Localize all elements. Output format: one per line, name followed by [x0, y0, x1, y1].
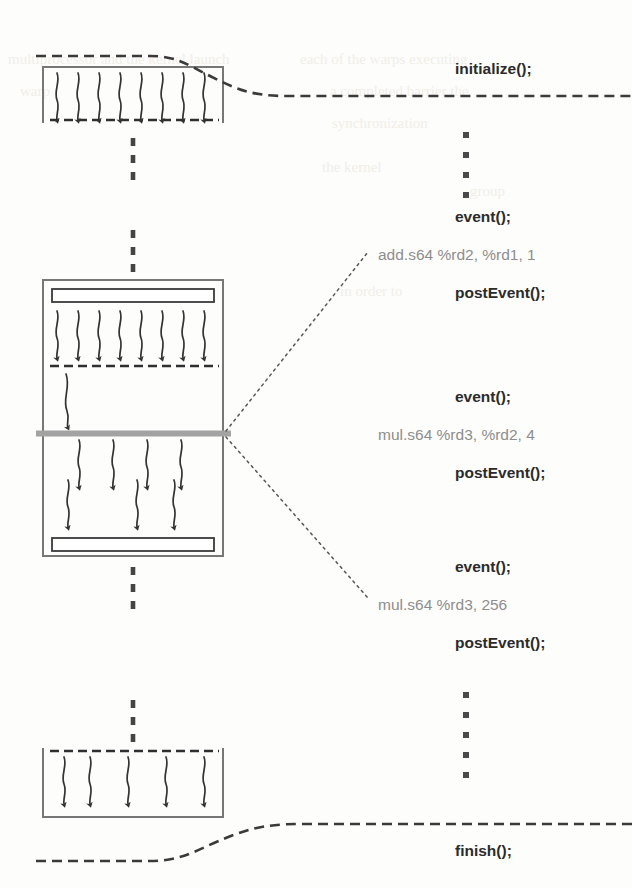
timeline-label-finish: finish();	[455, 842, 512, 860]
svg-text:synchronization: synchronization	[332, 115, 428, 131]
timeline-label-postevent-3: postEvent();	[455, 634, 545, 652]
second-kernel-block	[36, 280, 231, 556]
svg-text:the kernel: the kernel	[322, 159, 382, 175]
svg-text:in order to: in order to	[340, 283, 402, 299]
third-kernel-block	[43, 748, 223, 817]
timeline-ellipsis-top	[463, 132, 469, 198]
block-outline	[43, 748, 223, 817]
svg-text:group: group	[470, 183, 505, 199]
first-kernel-block	[43, 67, 223, 123]
timeline-label-initialize: initialize();	[455, 60, 532, 78]
timeline-label-postevent-2: postEvent();	[455, 464, 545, 482]
timeline-label-asm-3: mul.s64 %rd3, 256	[378, 596, 507, 614]
finish-timeline-link	[36, 824, 632, 861]
timeline-label-asm-2: mul.s64 %rd3, %rd2, 4	[378, 426, 535, 444]
block-inner-bar-top	[52, 289, 214, 302]
timeline-label-asm-1: add.s64 %rd2, %rd1, 1	[378, 246, 536, 264]
warp-arrow-group	[56, 73, 205, 121]
warp-arrow-single	[65, 374, 68, 428]
timeline-label-event-2: event();	[455, 388, 511, 406]
callout-line-upper	[226, 252, 368, 431]
svg-text:warp: warp	[20, 83, 50, 99]
timeline-label-postevent-1: postEvent();	[455, 284, 545, 302]
block-outline	[43, 67, 223, 123]
warp-arrow-group-mid	[78, 440, 182, 488]
timeline-label-event-1: event();	[455, 208, 511, 226]
timeline-label-event-3: event();	[455, 558, 511, 576]
svg-text:multiprocessor and the kernel: multiprocessor and the kernel launch	[8, 51, 230, 67]
callout-line-lower	[226, 437, 368, 598]
diagram-canvas: multiprocessor and the kernel launch eac…	[0, 0, 632, 888]
block-inner-bar-bottom	[52, 538, 214, 551]
warp-arrow-group-upper	[56, 311, 205, 359]
block-outline	[43, 280, 223, 556]
svg-text:each of the warps executing: each of the warps executing	[300, 51, 468, 67]
timeline-ellipsis-bottom	[463, 692, 469, 778]
warp-arrow-group-lower	[67, 480, 175, 528]
warp-arrow-group	[63, 757, 205, 805]
